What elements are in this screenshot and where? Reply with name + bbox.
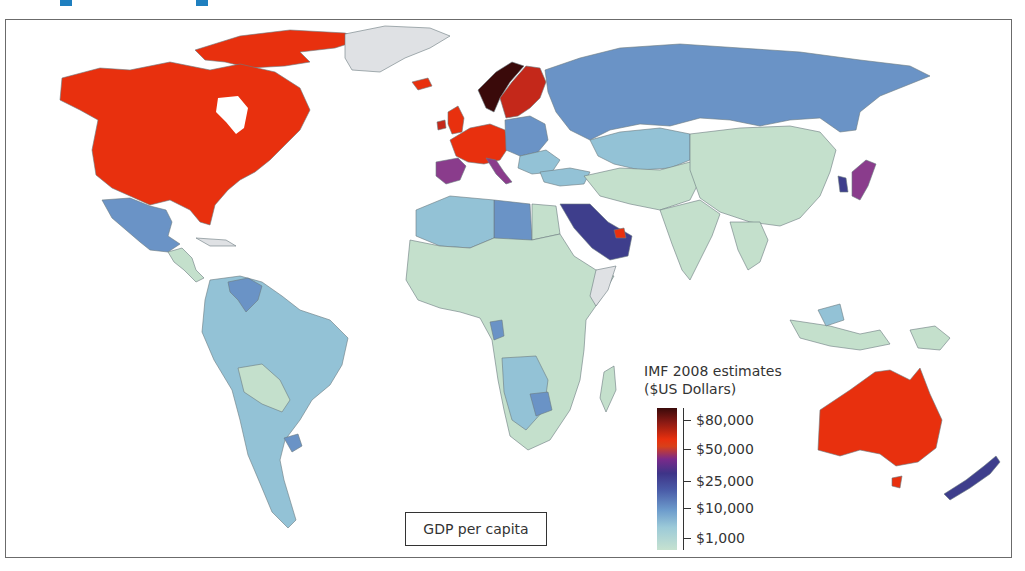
region-sub-saharan-africa [406, 234, 614, 450]
region-iceland [412, 78, 432, 90]
region-ireland [437, 120, 446, 130]
region-turkey [540, 168, 590, 186]
region-new-zealand [944, 456, 1000, 500]
region-mexico [102, 198, 180, 252]
region-australia [818, 368, 942, 466]
legend-tick [683, 449, 691, 450]
legend-color-scale [657, 408, 677, 550]
legend: IMF 2008 estimates ($US Dollars) $80,000… [644, 362, 784, 398]
legend-tick-label: $50,000 [696, 441, 754, 457]
region-uk [448, 106, 464, 134]
region-spain [436, 158, 466, 184]
region-tasmania [892, 476, 902, 488]
legend-tick-label: $10,000 [696, 500, 754, 516]
region-borneo [818, 304, 844, 326]
region-japan [852, 160, 876, 200]
region-north-america [60, 62, 310, 225]
legend-tick [683, 538, 691, 539]
region-south-korea [838, 176, 848, 192]
region-papua [910, 326, 950, 350]
legend-axis [683, 408, 684, 550]
region-uae [614, 228, 626, 238]
legend-tick [683, 508, 691, 509]
region-canada-arctic [195, 30, 360, 68]
world-map [0, 0, 1025, 571]
region-russia [545, 44, 930, 140]
legend-tick-label: $80,000 [696, 412, 754, 428]
region-north-africa [416, 196, 494, 248]
legend-tick-label: $1,000 [696, 530, 745, 546]
region-india [660, 200, 720, 280]
region-central-asia [584, 162, 700, 210]
region-kazakhstan [590, 128, 690, 170]
region-indonesia [790, 320, 890, 350]
legend-title-line1: IMF 2008 estimates [644, 362, 784, 380]
region-greenland [345, 26, 450, 72]
region-southeast-asia [730, 222, 768, 270]
region-central-america [168, 248, 204, 282]
legend-title-line2: ($US Dollars) [644, 380, 784, 398]
region-eastern-europe [505, 116, 548, 156]
region-italy [486, 158, 512, 184]
legend-tick-label: $25,000 [696, 473, 754, 489]
legend-tick [683, 420, 691, 421]
map-caption: GDP per capita [405, 512, 547, 546]
region-madagascar [600, 366, 616, 412]
region-caribbean [196, 238, 236, 246]
legend-tick [683, 481, 691, 482]
